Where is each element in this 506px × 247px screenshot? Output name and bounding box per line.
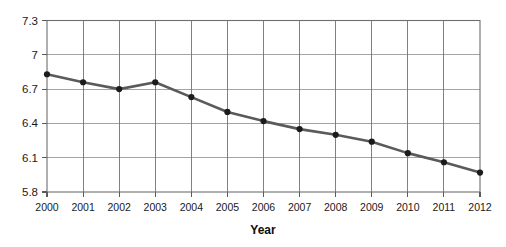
y-axis-tick-label: 6.4 (22, 117, 39, 129)
y-axis-tick-label: 6.1 (22, 152, 38, 164)
x-axis-tick-label: 2012 (468, 201, 492, 213)
data-point-marker (405, 150, 411, 156)
y-axis-tick-label: 7 (32, 49, 38, 61)
chart-canvas: 5.86.16.46.777.3 20002001200220032004200… (0, 0, 506, 247)
x-axis-tick-label: 2000 (35, 201, 59, 213)
data-point-marker (477, 169, 483, 175)
x-axis-tick-label: 2007 (288, 201, 312, 213)
data-point-marker (188, 94, 194, 100)
x-axis-tick-label: 2004 (180, 201, 204, 213)
data-point-marker (296, 126, 302, 132)
x-axis-tick-label: 2008 (324, 201, 348, 213)
x-axis-tick-label: 2005 (216, 201, 240, 213)
data-point-marker (369, 139, 375, 145)
x-axis-title: Year (250, 223, 276, 237)
x-axis-tick-label: 2010 (396, 201, 420, 213)
line-chart: 5.86.16.46.777.3 20002001200220032004200… (0, 0, 506, 247)
x-axis-tick-label: 2009 (360, 201, 384, 213)
data-point-marker (333, 132, 339, 138)
data-point-marker (260, 118, 266, 124)
x-axis-tick-label: 2003 (144, 201, 168, 213)
data-point-marker (44, 71, 50, 77)
data-point-marker (80, 79, 86, 85)
data-point-marker (116, 86, 122, 92)
x-axis-tick-label: 2001 (71, 201, 95, 213)
data-point-marker (224, 109, 230, 115)
x-axis-tick-label: 2006 (252, 201, 276, 213)
x-axis-tick-label: 2011 (433, 201, 456, 213)
data-point-marker (441, 159, 447, 165)
y-axis-tick-label: 5.8 (22, 186, 38, 198)
data-point-marker (152, 79, 158, 85)
x-axis-tick-label: 2002 (107, 201, 131, 213)
y-axis-tick-label: 7.3 (22, 15, 38, 27)
y-axis-tick-label: 6.7 (22, 83, 38, 95)
